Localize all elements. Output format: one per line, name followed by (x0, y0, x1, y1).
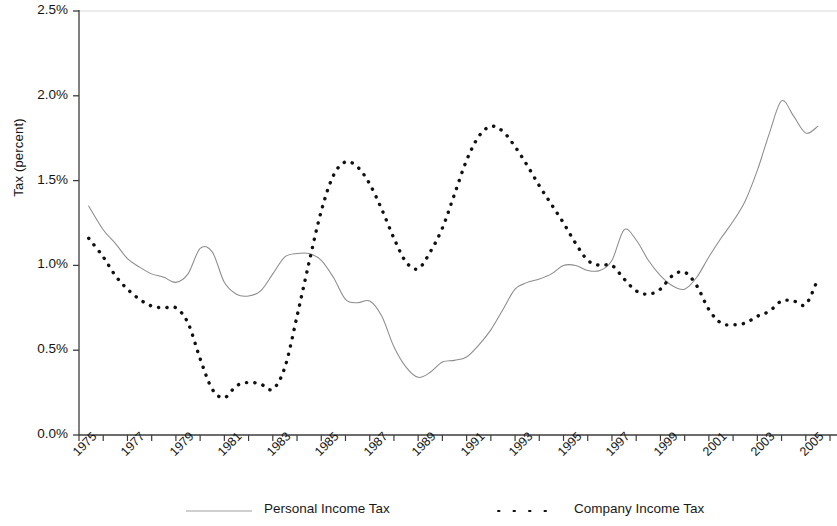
x-axis-tick-label: 1977 (118, 429, 148, 459)
x-axis-tick-label: 1983 (264, 429, 294, 459)
x-axis-tick-label: 1981 (215, 429, 245, 459)
legend-item-personal-income-tax: Personal Income Tax (186, 501, 390, 516)
x-axis-tick-label: 2001 (700, 429, 730, 459)
x-axis-tick-label: 1985 (312, 429, 342, 459)
legend-item-company-income-tax: Company Income Tax (496, 501, 704, 516)
x-axis-tick-label: 1991 (458, 429, 488, 459)
x-axis-tick-label: 1999 (651, 429, 681, 459)
dashed-line-swatch (496, 504, 562, 514)
x-axis-tick-label: 1993 (506, 429, 536, 459)
x-axis-tick-label: 1997 (603, 429, 633, 459)
chart-container: Tax (percent) 0.0%0.5%1.0%1.5%2.0%2.5% 1… (0, 0, 837, 526)
solid-line-swatch (186, 504, 252, 514)
x-axis-tick-label: 1979 (167, 429, 197, 459)
x-axis-tick-label: 1987 (361, 429, 391, 459)
x-axis-tick-labels: 1975197719791981198319851987198919911993… (0, 0, 837, 526)
legend-label-personal-income-tax: Personal Income Tax (264, 501, 390, 516)
x-axis-tick-label: 2003 (748, 429, 778, 459)
x-axis-tick-label: 1995 (555, 429, 585, 459)
x-axis-tick-label: 1989 (409, 429, 439, 459)
legend-label-company-income-tax: Company Income Tax (574, 501, 704, 516)
x-axis-tick-label: 2005 (797, 429, 827, 459)
x-axis-tick-label: 1975 (70, 429, 100, 459)
chart-legend: Personal Income Tax Company Income Tax (0, 498, 837, 526)
